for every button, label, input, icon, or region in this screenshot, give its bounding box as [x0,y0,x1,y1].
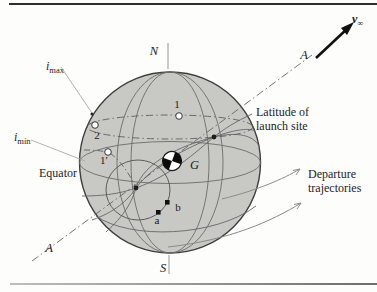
i-min-leader-line [31,140,85,161]
point-2-label: 2 [94,129,100,141]
lower-arrowhead [294,203,301,209]
i-min-label: imin [14,130,31,146]
departure-label-line1: Departure [308,167,356,181]
latitude-label-line1: Latitude of [256,105,309,119]
sphere-diagram: N S A A v∞ imax imin Equator Latitude of… [0,0,377,292]
point-b-marker [165,200,170,205]
i-max-label: imax [46,59,65,75]
latitude-label-line2: launch site [256,119,308,133]
asymptote-label-top: A [299,48,308,62]
departure-label-line2: trajectories [308,181,362,195]
asymptote-label-bottom: A [44,241,53,255]
tangent-point-dot [90,112,93,115]
hub-intersection-dot [134,186,139,191]
v-infinity-label: v∞ [352,12,363,28]
point-1-label: 1 [174,98,180,110]
asymptote-pierce-dot [212,135,217,140]
point-a-label: a [155,214,160,226]
equator-label: Equator [39,166,77,180]
point-1prime-label: 1′ [100,154,108,166]
south-pole-label: S [160,261,167,275]
point-1-marker [176,113,183,120]
v-infinity-arrow [316,22,354,58]
point-2-marker [92,122,99,129]
figure-page: N S A A v∞ imax imin Equator Latitude of… [0,0,377,292]
point-b-label: b [175,201,181,213]
north-pole-label: N [149,44,159,58]
center-label-G: G [190,158,199,172]
i-max-leader-line [61,67,92,113]
